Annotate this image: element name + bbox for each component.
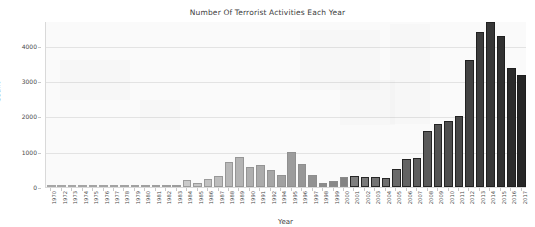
- bar: [152, 185, 161, 187]
- x-tick-label: 2002: [366, 191, 371, 204]
- bar: [329, 181, 338, 187]
- x-axis-title: Year: [45, 218, 526, 226]
- bar: [214, 176, 223, 187]
- x-tick-label: 1977: [115, 191, 120, 204]
- bar: [434, 124, 443, 187]
- chart-title: Number Of Terrorist Activities Each Year: [0, 8, 535, 17]
- bar: [57, 185, 66, 187]
- bar: [120, 185, 129, 187]
- x-tick-label: 1979: [136, 191, 141, 204]
- bar: [455, 116, 464, 187]
- bar: [444, 121, 453, 187]
- bar: [517, 75, 526, 187]
- bar: [183, 180, 192, 187]
- bar: [465, 60, 474, 187]
- x-tick-label: 1995: [293, 191, 298, 204]
- y-tick-label: 1000: [0, 150, 37, 156]
- x-tick-label: 2013: [481, 191, 486, 204]
- plot-area: [45, 22, 526, 188]
- bar: [141, 185, 150, 187]
- bar: [256, 165, 265, 187]
- bar: [340, 177, 349, 187]
- x-tick-label: 1996: [303, 191, 308, 204]
- x-tick-label: 1992: [272, 191, 277, 204]
- x-tick-label: 1986: [209, 191, 214, 204]
- x-tick-label: 1999: [335, 191, 340, 204]
- bar: [235, 157, 244, 187]
- bar: [507, 68, 516, 187]
- x-tick-label: 1988: [230, 191, 235, 204]
- x-tick-label: 1985: [199, 191, 204, 204]
- x-tick-label: 1980: [146, 191, 151, 204]
- bar: [225, 162, 234, 187]
- y-tick-label: 0: [0, 185, 37, 191]
- x-tick-label: 2006: [408, 191, 413, 204]
- x-tick-label: 1972: [63, 191, 68, 204]
- bar: [110, 185, 119, 187]
- x-tick-label: 1970: [52, 191, 57, 204]
- x-tick-label: 1983: [178, 191, 183, 204]
- x-tick-label: 1997: [314, 191, 319, 204]
- bar: [402, 159, 411, 187]
- x-tick-label: 1982: [167, 191, 172, 204]
- x-tick-label: 1978: [125, 191, 130, 204]
- x-tick-label: 2003: [376, 191, 381, 204]
- bar: [246, 167, 255, 187]
- x-tick-label: 2012: [470, 191, 475, 204]
- bar: [99, 185, 108, 187]
- x-tick-label: 2005: [397, 191, 402, 204]
- x-tick-label: 1994: [282, 191, 287, 204]
- x-tick-label: 1987: [220, 191, 225, 204]
- x-tick-label: 1991: [261, 191, 266, 204]
- bar: [382, 178, 391, 187]
- bar: [423, 131, 432, 188]
- y-tick-mark: [38, 82, 41, 83]
- x-tick-label: 1984: [188, 191, 193, 204]
- bar: [361, 177, 370, 187]
- bar: [497, 36, 506, 187]
- bar: [371, 177, 380, 187]
- x-tick-label: 2015: [502, 191, 507, 204]
- y-tick-label: 4000: [0, 44, 37, 50]
- bar: [476, 32, 485, 187]
- chart-figure: Number Of Terrorist Activities Each Year…: [0, 0, 535, 227]
- x-tick-label: 1989: [240, 191, 245, 204]
- bar: [308, 175, 317, 187]
- bar: [413, 158, 422, 187]
- bar: [193, 183, 202, 187]
- x-tick-label: 2009: [439, 191, 444, 204]
- x-tick-label: 2014: [491, 191, 496, 204]
- y-tick-label: 2000: [0, 114, 37, 120]
- bar: [89, 185, 98, 187]
- bar: [298, 164, 307, 187]
- x-axis-tick-labels: 1970197219731974197519761977197819791980…: [45, 191, 526, 219]
- x-tick-label: 2008: [429, 191, 434, 204]
- bar: [486, 22, 495, 187]
- bar: [68, 185, 77, 187]
- y-tick-mark: [38, 117, 41, 118]
- y-tick-mark: [38, 153, 41, 154]
- bar: [131, 185, 140, 187]
- bar: [350, 176, 359, 187]
- bar: [267, 170, 276, 187]
- y-tick-mark: [38, 47, 41, 48]
- bar: [287, 152, 296, 187]
- bar: [319, 183, 328, 187]
- bar: [277, 175, 286, 187]
- x-tick-label: 2001: [355, 191, 360, 204]
- y-axis-tick-labels: 01000200030004000: [0, 22, 41, 188]
- x-tick-label: 1976: [105, 191, 110, 204]
- x-tick-label: 2011: [460, 191, 465, 204]
- bar-series: [46, 22, 526, 187]
- x-tick-label: 2004: [387, 191, 392, 204]
- x-tick-label: 1990: [251, 191, 256, 204]
- x-tick-label: 1975: [94, 191, 99, 204]
- y-tick-label: 3000: [0, 79, 37, 85]
- x-tick-label: 1981: [157, 191, 162, 204]
- x-tick-label: 1998: [324, 191, 329, 204]
- bar: [47, 185, 56, 187]
- bar: [172, 185, 181, 187]
- x-tick-label: 2010: [450, 191, 455, 204]
- bar: [204, 179, 213, 187]
- x-tick-label: 2016: [512, 191, 517, 204]
